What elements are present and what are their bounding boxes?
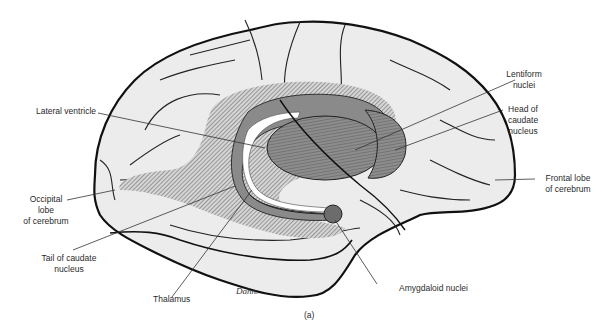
label-lateral-ventricle: Lateral ventricle <box>36 106 96 117</box>
label-line: Head of <box>502 104 544 115</box>
label-occipital-lobe: Occipital lobe of cerebrum <box>18 194 74 227</box>
label-tail-of-caudate: Tail of caudate nucleus <box>34 253 104 275</box>
label-line: Tail of caudate <box>34 253 104 264</box>
brain-diagram: Dahn. Lateral ventricle Lentiform nuclei… <box>0 0 609 333</box>
amygdaloid-nucleus <box>324 205 342 223</box>
label-line: of cerebrum <box>18 216 74 227</box>
lentiform-nucleus <box>267 116 383 180</box>
subfigure-label: (a) <box>304 310 314 321</box>
label-line: nucleus <box>502 126 544 137</box>
label-thalamus: Thalamus <box>153 294 190 305</box>
label-line: Lentiform <box>499 69 549 80</box>
label-amygdaloid-nuclei: Amygdaloid nuclei <box>399 283 468 294</box>
label-head-of-caudate: Head of caudate nucleus <box>502 104 544 137</box>
label-line: lobe <box>18 205 74 216</box>
label-line: caudate <box>502 115 544 126</box>
label-line: of cerebrum <box>538 184 598 195</box>
label-line: Frontal lobe <box>538 173 598 184</box>
artist-signature: Dahn. <box>235 286 258 296</box>
label-frontal-lobe: Frontal lobe of cerebrum <box>538 173 598 195</box>
label-line: nucleus <box>34 264 104 275</box>
label-line: nuclei <box>499 80 549 91</box>
label-lentiform-nuclei: Lentiform nuclei <box>499 69 549 91</box>
label-line: Occipital <box>18 194 74 205</box>
